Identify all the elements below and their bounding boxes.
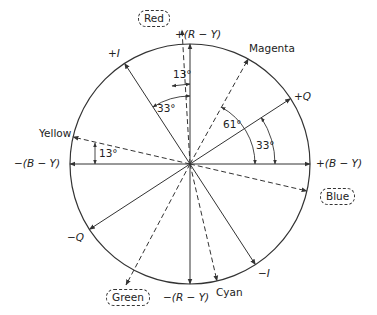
angle-label-13-top: 13° [173,69,192,80]
label-red: Red [138,10,170,27]
angle-label-33-right: 33° [256,140,275,151]
arc-13-top [172,84,190,86]
label-blue: Blue [320,188,355,205]
label-cyan: Cyan [216,287,243,298]
vector-cyan [190,164,217,281]
vector-red [182,30,190,164]
label-plus-i: +I [108,48,120,59]
angle-label-33-top: 33° [157,103,176,114]
label-r-minus-y-neg: −(R − Y) [163,292,209,303]
label-minus-i: −I [258,268,270,279]
label-magenta: Magenta [249,43,295,54]
vector-blue [190,164,307,191]
label-yellow: Yellow [39,128,71,139]
label-minus-q: −Q [67,232,84,243]
angle-label-13-left: 13° [99,148,118,159]
vector-magenta [190,59,248,164]
arc-61 [222,107,256,164]
label-r-minus-y-pos: +(R − Y) [175,29,221,40]
angle-arcs [95,84,275,164]
angle-label-61: 61° [223,119,242,130]
label-b-minus-y-pos: +(B − Y) [316,158,362,169]
vector-green [126,164,190,285]
axis-minus-i [190,164,255,265]
label-plus-q: +Q [294,91,311,102]
label-green: Green [106,289,150,306]
axis-minus-q [89,164,190,229]
label-b-minus-y-neg: −(B − Y) [14,158,60,169]
vector-yellow [73,137,190,164]
axis-plus-q [190,99,291,164]
